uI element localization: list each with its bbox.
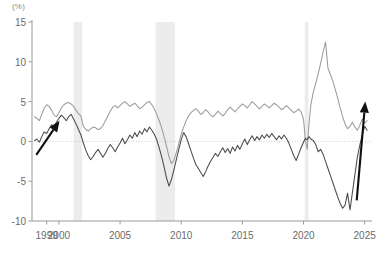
recession-bands-group [74,22,309,221]
series-lines-group [34,42,367,210]
y-axis-tick-label: 15 [0,17,26,28]
y-axis-tick-label: 10 [0,56,26,67]
y-axis-tick-label: 5 [0,96,26,107]
x-axis-tick-label: 2020 [284,230,324,241]
x-axis-tick-label: 2000 [39,230,79,241]
x-axis-tick-label: 2010 [161,230,201,241]
x-axis-tick-label: 2005 [100,230,140,241]
shaded-band-recession-2020 [305,22,309,221]
early-trend-arrow [36,121,59,155]
x-axis-tick-label: 2025 [345,230,381,241]
y-axis-tick-label: 0 [0,136,26,147]
x-axis-tick-label: 2015 [222,230,262,241]
shaded-band-recession-2008 [156,22,176,221]
line-series-dark [34,114,367,210]
y-axis-tick-label: -10 [0,216,26,227]
y-axis-tick-label: -5 [0,176,26,187]
